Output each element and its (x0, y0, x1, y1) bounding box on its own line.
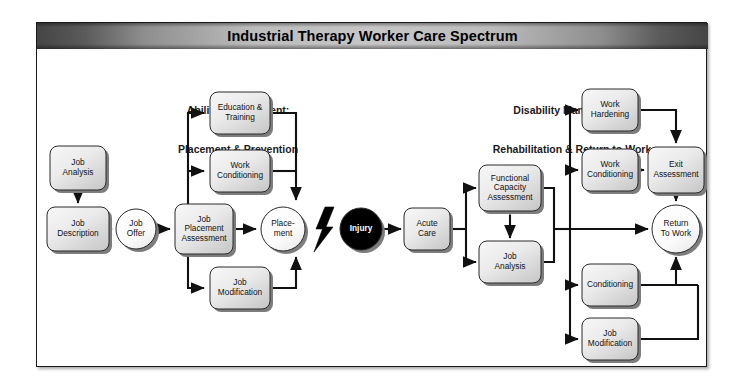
title-bar: Industrial Therapy Worker Care Spectrum (37, 23, 708, 49)
section-heading-ability-management: Ability Management: Placement & Preventi… (123, 78, 353, 182)
diagram-frame: Industrial Therapy Worker Care Spectrum … (36, 22, 707, 367)
page-title: Industrial Therapy Worker Care Spectrum (37, 23, 708, 49)
section-heading-ability-line2: Placement & Prevention (123, 143, 353, 156)
section-heading-disability-management: Disability Management: Rehabilitation & … (442, 78, 702, 182)
diagram-canvas: Industrial Therapy Worker Care Spectrum … (0, 0, 743, 389)
section-heading-disability-line2: Rehabilitation & Return to Work (442, 143, 702, 156)
section-heading-ability-line1: Ability Management: (123, 104, 353, 117)
section-heading-disability-line1: Disability Management: (442, 104, 702, 117)
